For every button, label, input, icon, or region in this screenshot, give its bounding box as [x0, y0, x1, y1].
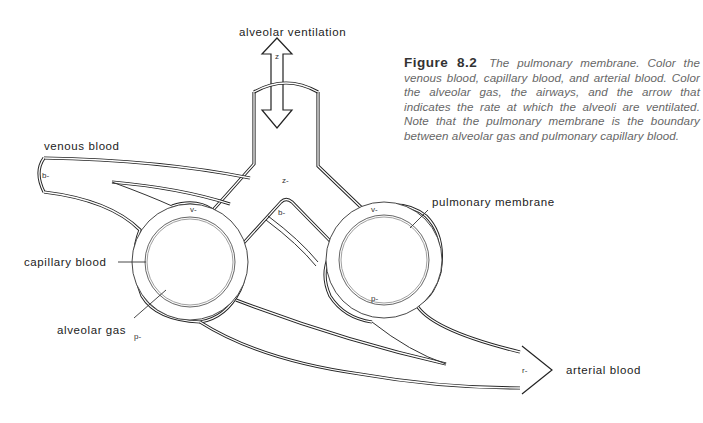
- label-venous-blood: venous blood: [44, 140, 120, 152]
- left-alveolus: [132, 204, 248, 320]
- label-alveolar-ventilation: alveolar ventilation: [239, 26, 346, 38]
- tag-arterial-outlet: r-: [522, 366, 528, 375]
- tag-venous-inlet: b-: [42, 171, 49, 180]
- label-capillary-blood: capillary blood: [24, 256, 107, 268]
- venous-branch: [266, 216, 318, 266]
- tag-left-alveolus: p-: [134, 332, 141, 341]
- figure-caption: Figure 8.2 The pulmonary membrane. Color…: [404, 56, 700, 144]
- figure-number: Figure 8.2: [404, 55, 477, 70]
- tag-right-capillary: v-: [371, 205, 378, 214]
- tag-ventilation-arrow: z: [275, 52, 279, 61]
- label-arterial-blood: arterial blood: [566, 364, 641, 376]
- tag-left-capillary: v-: [190, 205, 197, 214]
- label-alveolar-gas: alveolar gas: [57, 324, 126, 336]
- tag-airway: z-: [282, 176, 289, 185]
- right-alveolus: [326, 202, 442, 318]
- label-pulmonary-membrane: pulmonary membrane: [432, 196, 555, 208]
- tag-venous-branch: b-: [278, 208, 285, 217]
- tag-right-alveolus: p-: [371, 294, 378, 303]
